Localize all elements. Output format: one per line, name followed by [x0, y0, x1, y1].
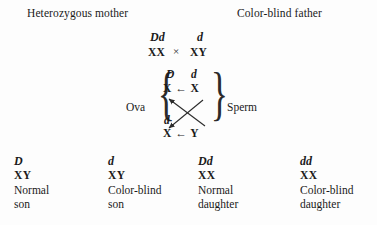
- punnett-cross-diagram: Heterozygous mother Color-blind father D…: [0, 0, 377, 225]
- offspring-description-line1: Normal: [14, 183, 49, 197]
- offspring-genotype: dd: [300, 155, 353, 168]
- offspring-description-line2: son: [108, 197, 161, 211]
- father-label: Color-blind father: [237, 7, 322, 19]
- offspring-description-line2: daughter: [300, 197, 353, 211]
- offspring-genotype: Dd: [198, 155, 238, 168]
- offspring-description-line1: Color-blind: [300, 183, 353, 197]
- offspring-chromosomes: XX: [300, 168, 353, 183]
- mother-label: Heterozygous mother: [27, 7, 128, 19]
- offspring-description-line2: son: [14, 197, 49, 211]
- offspring-column: D XY Normal son: [14, 155, 49, 211]
- mother-genotype-allele: Dd: [150, 30, 165, 45]
- offspring-column: d XY Color-blind son: [108, 155, 161, 211]
- offspring-chromosomes: XX: [198, 168, 238, 183]
- top-sperm-allele: d: [191, 68, 197, 80]
- offspring-column: dd XX Color-blind daughter: [300, 155, 353, 211]
- offspring-description-line1: Color-blind: [108, 183, 161, 197]
- father-chromosomes: XY: [190, 46, 207, 58]
- top-ovum-allele: D: [166, 68, 174, 80]
- sperm-label: Sperm: [227, 101, 257, 113]
- offspring-column: Dd XX Normal daughter: [198, 155, 238, 211]
- offspring-description-line1: Normal: [198, 183, 238, 197]
- gamete-block: { } D d X ← X d X ← Y: [155, 70, 217, 144]
- top-gamete-row: X ← X: [163, 82, 199, 94]
- cross-multiplication-icon: ×: [173, 45, 179, 57]
- right-brace-icon: }: [211, 63, 228, 123]
- offspring-description-line2: daughter: [198, 197, 238, 211]
- crossing-arrows-icon: [165, 96, 209, 132]
- mother-chromosomes: XX: [148, 46, 165, 58]
- offspring-chromosomes: XY: [14, 168, 49, 183]
- offspring-genotype: D: [14, 155, 49, 168]
- ova-label: Ova: [126, 101, 145, 113]
- father-genotype-allele: d: [197, 30, 203, 45]
- offspring-chromosomes: XY: [108, 168, 161, 183]
- offspring-genotype: d: [108, 155, 161, 168]
